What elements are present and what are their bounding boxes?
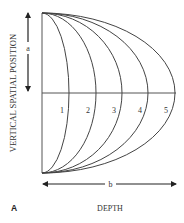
curve-label-1: 1 — [60, 106, 64, 115]
x-axis-label: DEPTH — [97, 204, 123, 213]
curve-label-4: 4 — [138, 106, 142, 115]
dimension-b-label: b — [109, 180, 113, 189]
curve-family-diagram: 12345 a b VERTICAL SPATIAL POSITION DEPT… — [0, 0, 184, 223]
dimension-a-label: a — [26, 44, 30, 53]
curve-label-2: 2 — [86, 106, 90, 115]
y-axis-label: VERTICAL SPATIAL POSITION — [8, 33, 18, 152]
panel-label: A — [11, 203, 17, 213]
curve-label-5: 5 — [164, 106, 168, 115]
curve-label-3: 3 — [112, 106, 116, 115]
curve-label-group: 12345 — [60, 106, 168, 115]
